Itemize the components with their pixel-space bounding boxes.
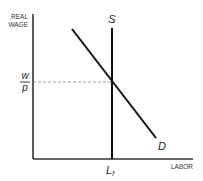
wage-denominator: p	[21, 82, 28, 93]
equilibrium-labor-label: Lf	[106, 164, 115, 177]
demand-label: D	[158, 140, 166, 152]
y-axis-label-line2: WAGE	[8, 21, 28, 28]
labor-market-diagram: REAL WAGE LABOR S D w p Lf	[0, 0, 203, 181]
x-axis-label: LABOR	[171, 163, 193, 170]
y-axis-label-line1: REAL	[11, 13, 28, 20]
wage-numerator: w	[21, 70, 29, 81]
equilibrium-labor-subscript: f	[112, 170, 115, 177]
supply-label: S	[108, 13, 116, 25]
demand-curve	[72, 29, 156, 138]
